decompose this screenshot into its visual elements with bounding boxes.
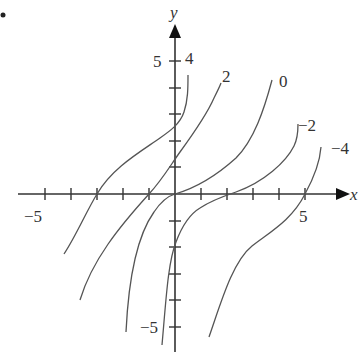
bullet-marker [1,13,6,18]
y-axis-arrow-icon [169,24,181,38]
curve-0 [126,80,272,332]
curve-label-4: 4 [185,49,194,68]
y-tick-label-neg5: −5 [140,318,158,337]
curve-label-neg2: −2 [298,116,316,135]
x-axis-arrow-icon [336,188,350,200]
solution-curves [64,75,321,345]
y-tick-label-5: 5 [153,52,162,71]
curve-neg4 [209,147,321,337]
direction-field-chart: y x −5 5 5 −5 4 2 0 −2 −4 [0,0,362,352]
curve-2 [80,83,221,300]
curve-label-neg4: −4 [331,139,350,158]
curve-label-2: 2 [222,67,231,86]
curve-neg2 [162,124,298,345]
x-tick-label-5: 5 [299,207,308,226]
x-axis-label: x [349,185,358,204]
x-tick-label-neg5: −5 [24,207,42,226]
y-axis-label: y [168,3,178,22]
curve-4 [64,75,188,254]
curve-label-0: 0 [279,72,288,91]
